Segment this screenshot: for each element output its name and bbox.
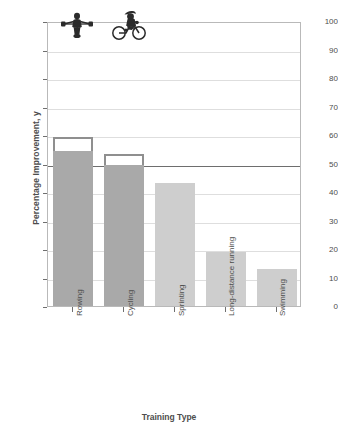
- y-tick-label: 10: [298, 275, 338, 283]
- x-tick-label-long-distance-running: Long-distance running: [228, 237, 236, 316]
- grid-line: [48, 109, 300, 110]
- cyclist-pictogram: [111, 9, 147, 41]
- y-tick-label: 90: [298, 47, 338, 55]
- y-tick-label: 50: [298, 161, 338, 169]
- y-tick-label: 80: [298, 75, 338, 83]
- x-tick: [174, 307, 175, 312]
- bar-swimming[interactable]: [257, 269, 297, 306]
- x-tick-label-sprinting: Sprinting: [178, 284, 186, 316]
- bar-sprinting[interactable]: [155, 183, 195, 306]
- y-tick-label: 30: [298, 218, 338, 226]
- x-tick: [72, 307, 73, 312]
- y-tick-label: 20: [298, 246, 338, 254]
- x-tick-label-rowing: Rowing: [76, 289, 84, 316]
- plot-area: [47, 22, 301, 307]
- x-tick: [225, 307, 226, 312]
- grid-line: [48, 80, 300, 81]
- bar-open-top-rowing[interactable]: [53, 137, 93, 151]
- bar-chart: Percentage Improvement, y 01020304050607…: [0, 0, 338, 439]
- y-tick-label: 70: [298, 104, 338, 112]
- bar-open-top-cycling[interactable]: [104, 154, 144, 165]
- y-tick: [43, 307, 47, 308]
- y-tick-label: 40: [298, 189, 338, 197]
- y-tick-label: 60: [298, 132, 338, 140]
- bar-rowing[interactable]: [53, 149, 93, 306]
- x-tick: [123, 307, 124, 312]
- y-tick-label: 100: [298, 18, 338, 26]
- x-axis-title: Training Type: [0, 412, 338, 422]
- x-tick-label-swimming: Swimming: [279, 279, 287, 316]
- bar-long-distance-running[interactable]: [206, 252, 246, 306]
- bar-cycling[interactable]: [104, 164, 144, 307]
- grid-line: [48, 52, 300, 53]
- rower-pictogram: [60, 10, 94, 40]
- y-tick-label: 0: [298, 303, 338, 311]
- x-tick-label-cycling: Cycling: [127, 290, 135, 316]
- y-axis-title: Percentage Improvement, y: [31, 68, 41, 268]
- x-tick: [276, 307, 277, 312]
